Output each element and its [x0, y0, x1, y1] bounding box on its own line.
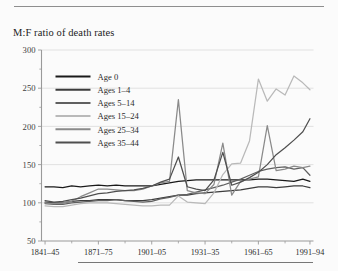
y-tick-label: 150: [23, 160, 36, 170]
y-tick-label: 200: [23, 122, 36, 132]
x-tick-label: 1901–05: [137, 248, 166, 257]
x-tick-label: 1961–65: [244, 248, 273, 257]
x-tick-label: 1991–94: [296, 248, 325, 257]
legend-label: Ages 15–24: [98, 111, 140, 121]
x-tick-label: 1931–35: [191, 248, 220, 257]
line-chart: 501001502002503001841–451871–751901–0519…: [0, 0, 338, 271]
series-line: [45, 119, 310, 202]
y-tick-label: 250: [23, 83, 36, 93]
series-line: [45, 167, 310, 204]
series-line: [45, 179, 310, 187]
x-tick-label: 1841–45: [31, 248, 60, 257]
y-tick-label: 50: [27, 236, 36, 246]
x-tick-label: 1871–75: [84, 248, 113, 257]
bottom-divider-rule: [78, 262, 313, 263]
legend-label: Age 0: [98, 72, 119, 82]
y-tick-label: 100: [23, 198, 36, 208]
figure-container: M:F ratio of death rates 501001502002503…: [0, 0, 338, 271]
legend-label: Ages 1–4: [98, 85, 131, 95]
y-tick-label: 300: [23, 45, 36, 55]
legend-label: Ages 25–34: [98, 125, 140, 135]
legend-label: Ages 35–44: [98, 138, 140, 148]
legend-label: Ages 5–14: [98, 98, 136, 108]
